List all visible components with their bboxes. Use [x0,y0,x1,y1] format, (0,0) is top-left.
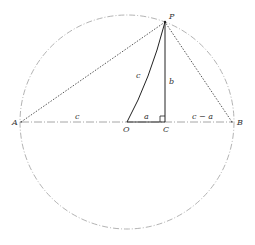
dotted-AP [21,22,165,122]
point-A [20,121,22,123]
label-B: B [236,118,243,127]
point-B [231,121,233,123]
label-OP: c [136,71,141,80]
label-P: P [168,12,175,21]
label-C: C [163,125,169,134]
label-OC: a [144,112,149,121]
right-angle-mark [160,116,165,122]
label-PC: b [169,77,174,86]
semicircle-diagram: A O C B P c a c − a c b [0,0,255,245]
label-AO: c [75,112,80,121]
segment-OP [127,22,165,122]
label-A: A [11,118,18,127]
label-O: O [123,125,130,134]
point-P [164,21,166,23]
label-CB: c − a [192,112,213,121]
